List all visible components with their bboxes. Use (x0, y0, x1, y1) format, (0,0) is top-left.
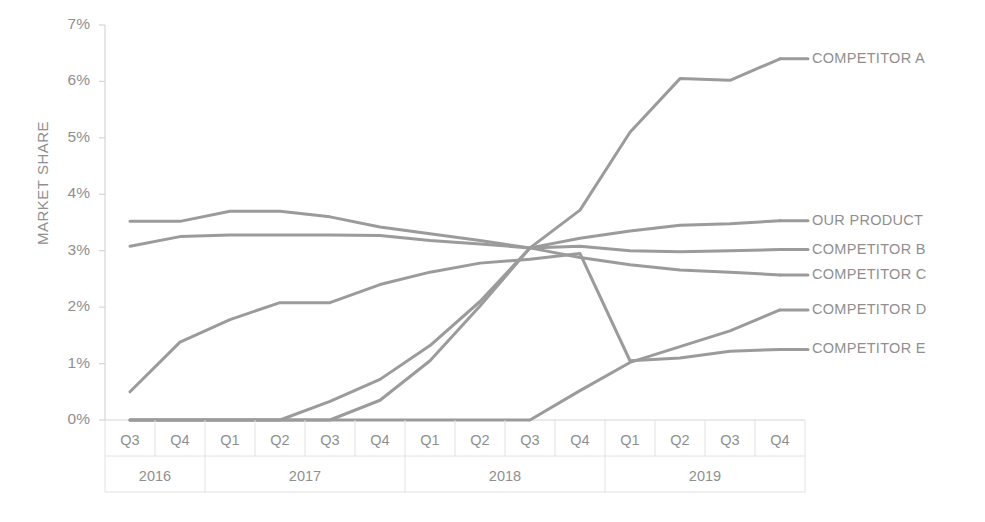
x-axis-year-label: 2019 (605, 458, 805, 494)
series-label: COMPETITOR A (812, 50, 925, 66)
series-line (130, 246, 780, 420)
x-axis-quarter-label: Q4 (555, 422, 605, 458)
x-axis-quarter-label: Q4 (155, 422, 205, 458)
series-line (130, 310, 780, 420)
x-axis-quarter-label: Q2 (255, 422, 305, 458)
x-axis-year-label: 2016 (105, 458, 205, 494)
x-axis-year-label: 2017 (205, 458, 405, 494)
x-axis-quarter-label: Q3 (505, 422, 555, 458)
series-label: COMPETITOR C (812, 266, 927, 282)
x-axis-quarter-label: Q1 (605, 422, 655, 458)
x-axis-quarter-label: Q3 (105, 422, 155, 458)
x-axis-quarter-label: Q2 (655, 422, 705, 458)
x-axis-quarter-label: Q3 (705, 422, 755, 458)
series-label: COMPETITOR B (812, 241, 926, 257)
series-label: COMPETITOR D (812, 301, 927, 317)
x-axis-quarter-label: Q2 (455, 422, 505, 458)
series-line (130, 59, 780, 420)
x-axis-quarter-label: Q1 (205, 422, 255, 458)
series-line (130, 221, 780, 248)
x-axis-quarter-label: Q1 (405, 422, 455, 458)
market-share-line-chart: MARKET SHARE 7%6%5%4%3%2%1%0% COMPETITOR… (0, 0, 985, 522)
x-axis-quarter-label: Q4 (355, 422, 405, 458)
x-axis-year-label: 2018 (405, 458, 605, 494)
x-axis-quarter-label: Q4 (755, 422, 805, 458)
series-label: COMPETITOR E (812, 340, 926, 356)
x-axis-quarter-label: Q3 (305, 422, 355, 458)
series-label: OUR PRODUCT (812, 212, 923, 228)
